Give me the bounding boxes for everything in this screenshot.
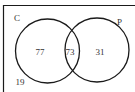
set-p-label: P [117, 17, 122, 27]
venn-diagram: C P 77 73 31 19 [0, 0, 135, 92]
set-c-label: C [14, 13, 20, 23]
universe-only-count: 19 [16, 77, 26, 87]
p-only-count: 31 [96, 47, 105, 57]
c-only-count: 77 [36, 47, 46, 57]
intersection-count: 73 [66, 47, 76, 57]
